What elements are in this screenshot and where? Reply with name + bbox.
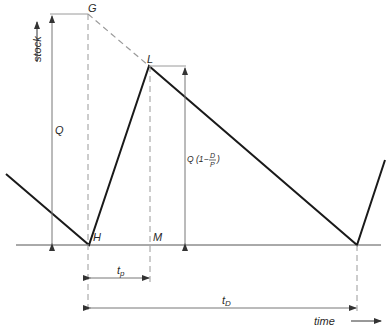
point-l-label: L	[147, 53, 153, 65]
tp-label: tp	[117, 264, 125, 278]
td-label: tD	[222, 294, 231, 308]
stock-axis-label: stock	[31, 36, 43, 62]
point-h-label: H	[93, 231, 101, 243]
time-axis-label: time	[314, 315, 335, 327]
q-net-frac-num: D	[210, 152, 215, 159]
inventory-diagram: stock time G L H M Q Q (1− D P ) tp tD	[0, 0, 391, 329]
max-production-dashed-line	[88, 14, 149, 66]
point-g-label: G	[88, 2, 97, 14]
q-net-frac-den: P	[210, 161, 215, 168]
point-m-label: M	[153, 231, 163, 243]
q-net-label: Q (1−	[187, 154, 209, 164]
q-label: Q	[55, 124, 64, 136]
q-net-frac-close: )	[216, 154, 220, 164]
